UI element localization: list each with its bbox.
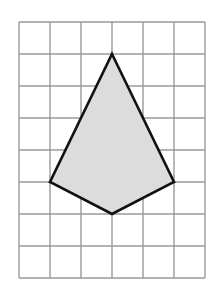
kite-shape [50,54,174,214]
grid-diagram [0,0,213,286]
